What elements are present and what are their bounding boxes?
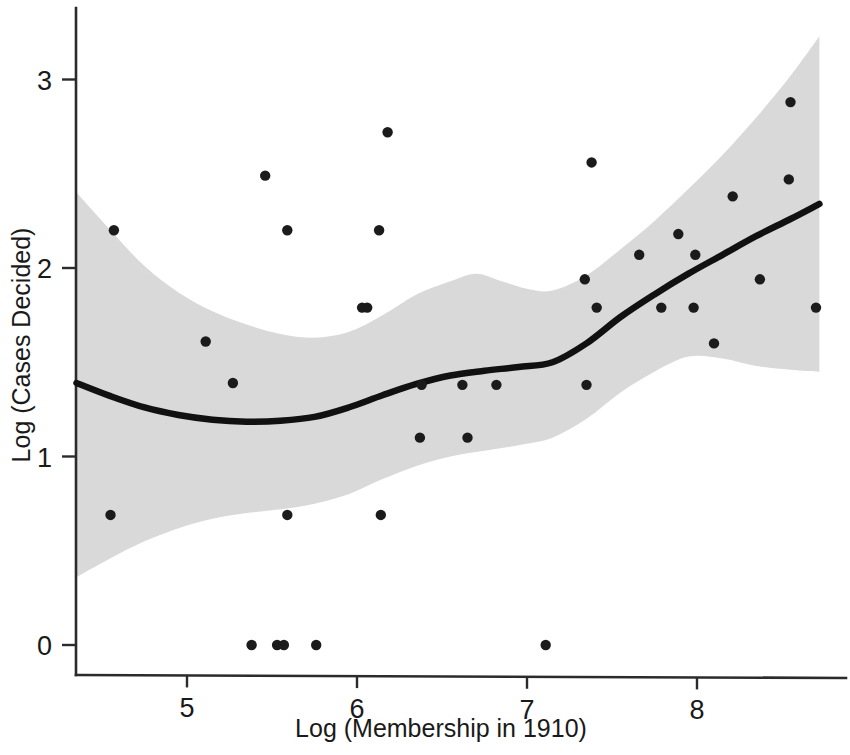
x-tick-label: 8	[689, 695, 704, 725]
data-point	[709, 338, 719, 348]
y-tick-label: 0	[37, 631, 52, 661]
data-point	[784, 174, 794, 184]
y-axis-title: Log (Cases Decided)	[7, 228, 35, 463]
y-axis-tick-labels: 0123	[37, 66, 52, 662]
confidence-band	[77, 36, 820, 577]
data-point	[105, 510, 115, 520]
data-point	[580, 274, 590, 284]
data-point	[785, 97, 795, 107]
scatter-plot-with-loess-fit: 0123 5678 Log (Membership in 1910) Log (…	[0, 0, 850, 755]
confidence-band-group	[77, 36, 820, 577]
data-point	[374, 225, 384, 235]
data-point	[362, 302, 372, 312]
y-tick-label: 2	[37, 254, 52, 284]
y-tick-label: 1	[37, 443, 52, 473]
data-point	[755, 274, 765, 284]
data-point	[811, 302, 821, 312]
data-point	[311, 640, 321, 650]
data-point	[282, 510, 292, 520]
data-point	[656, 302, 666, 312]
data-point	[246, 640, 256, 650]
data-point	[592, 302, 602, 312]
data-point	[109, 225, 119, 235]
data-point	[634, 250, 644, 260]
data-point	[728, 191, 738, 201]
x-axis-title: Log (Membership in 1910)	[295, 714, 587, 742]
data-point	[690, 250, 700, 260]
data-point	[541, 640, 551, 650]
chart-page: 0123 5678 Log (Membership in 1910) Log (…	[0, 0, 850, 755]
data-point	[201, 336, 211, 346]
data-point	[581, 380, 591, 390]
data-point	[415, 432, 425, 442]
data-point	[228, 378, 238, 388]
data-point	[457, 380, 467, 390]
x-axis-line	[76, 675, 846, 678]
data-point	[491, 380, 501, 390]
data-point	[688, 302, 698, 312]
data-point	[462, 432, 472, 442]
data-point	[376, 510, 386, 520]
data-point	[673, 229, 683, 239]
data-point	[260, 170, 270, 180]
y-axis-ticks	[62, 80, 76, 646]
data-point	[586, 157, 596, 167]
data-point	[279, 640, 289, 650]
x-tick-label: 5	[179, 693, 194, 723]
data-point	[416, 380, 426, 390]
data-point	[382, 127, 392, 137]
data-point	[282, 225, 292, 235]
y-tick-label: 3	[37, 66, 52, 96]
